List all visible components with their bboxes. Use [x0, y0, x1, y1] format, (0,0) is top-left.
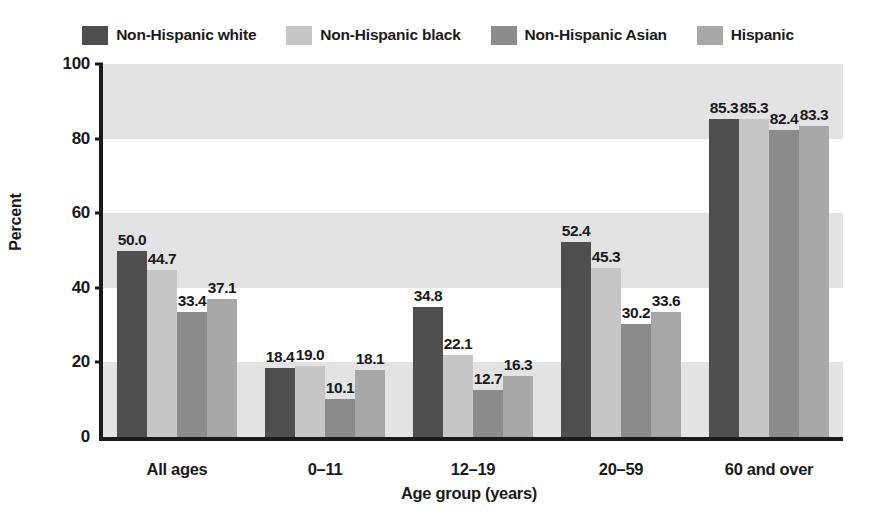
bar-value-label: 44.7 — [148, 250, 177, 268]
bar-slot: 10.1 — [325, 64, 355, 437]
bar-value-label: 85.3 — [710, 99, 739, 117]
legend-entry: Hispanic — [697, 26, 794, 45]
bar[interactable] — [591, 268, 621, 437]
bar-group: 52.445.330.233.620–59 — [547, 64, 695, 437]
bar-group: 18.419.010.118.10–11 — [251, 64, 399, 437]
bar[interactable] — [355, 370, 385, 438]
bar-value-label: 10.1 — [326, 379, 355, 397]
bar[interactable] — [709, 119, 739, 437]
y-axis-tick-mark — [95, 361, 103, 364]
bar-slot: 83.3 — [799, 64, 829, 437]
bar[interactable] — [117, 251, 147, 438]
bar-value-label: 33.6 — [652, 292, 681, 310]
bar-value-label: 52.4 — [562, 222, 591, 240]
x-axis-tick-label: 12–19 — [451, 460, 495, 479]
legend-label: Non-Hispanic black — [320, 26, 460, 44]
plot-area: 020406080100 50.044.733.437.1All ages18.… — [99, 64, 843, 441]
bar-value-label: 45.3 — [592, 248, 621, 266]
bar-value-label: 85.3 — [740, 99, 769, 117]
bar-group: 50.044.733.437.1All ages — [103, 64, 251, 437]
y-axis-tick-label: 40 — [26, 278, 90, 298]
y-axis-tick-label: 100 — [26, 54, 90, 74]
bar[interactable] — [413, 307, 443, 437]
bar-value-label: 50.0 — [118, 231, 147, 249]
legend-entry: Non-Hispanic white — [82, 26, 256, 45]
legend-swatch-icon — [286, 26, 312, 45]
y-axis-tick-mark — [95, 212, 103, 215]
bar-slot: 44.7 — [147, 64, 177, 437]
bar[interactable] — [295, 366, 325, 437]
bar[interactable] — [561, 242, 591, 437]
bar-groups: 50.044.733.437.1All ages18.419.010.118.1… — [103, 64, 843, 437]
bar[interactable] — [799, 126, 829, 437]
y-axis-tick-label: 80 — [26, 129, 90, 149]
bar-slot: 18.4 — [265, 64, 295, 437]
y-axis-tick-mark — [95, 63, 103, 66]
bar-slot: 18.1 — [355, 64, 385, 437]
legend-swatch-icon — [491, 26, 517, 45]
legend-entry: Non-Hispanic Asian — [491, 26, 667, 45]
bar-slot: 34.8 — [413, 64, 443, 437]
y-axis-tick-label: 0 — [26, 427, 90, 447]
bar-slot: 45.3 — [591, 64, 621, 437]
bar-value-label: 16.3 — [504, 356, 533, 374]
bar[interactable] — [443, 355, 473, 437]
bar-chart-figure: Non-Hispanic whiteNon-Hispanic blackNon-… — [0, 0, 876, 520]
bar-value-label: 37.1 — [208, 279, 237, 297]
bar-slot: 82.4 — [769, 64, 799, 437]
y-axis-title: Percent — [7, 162, 25, 282]
bar[interactable] — [769, 130, 799, 437]
bar[interactable] — [147, 270, 177, 437]
chart-legend: Non-Hispanic whiteNon-Hispanic blackNon-… — [0, 22, 876, 48]
bar-slot: 12.7 — [473, 64, 503, 437]
bar-group: 34.822.112.716.312–19 — [399, 64, 547, 437]
bar-value-label: 34.8 — [414, 287, 443, 305]
bar-value-label: 19.0 — [296, 346, 325, 364]
bar[interactable] — [473, 390, 503, 437]
bar-slot: 16.3 — [503, 64, 533, 437]
bar-slot: 33.4 — [177, 64, 207, 437]
x-axis-tick-label: 60 and over — [725, 460, 813, 479]
bar-slot: 85.3 — [709, 64, 739, 437]
bar-value-label: 30.2 — [622, 304, 651, 322]
bar[interactable] — [177, 312, 207, 437]
bar-value-label: 33.4 — [178, 292, 207, 310]
bar-value-label: 12.7 — [474, 370, 503, 388]
bar-value-label: 18.4 — [266, 348, 295, 366]
bar-value-label: 83.3 — [800, 106, 829, 124]
x-axis-tick-label: All ages — [147, 460, 208, 479]
bar[interactable] — [207, 299, 237, 437]
y-axis-tick-mark — [95, 137, 103, 140]
bar-slot: 33.6 — [651, 64, 681, 437]
x-axis-tick-label: 0–11 — [308, 460, 343, 479]
bar-slot: 19.0 — [295, 64, 325, 437]
bar-slot: 52.4 — [561, 64, 591, 437]
bar[interactable] — [265, 368, 295, 437]
bar-value-label: 82.4 — [770, 110, 799, 128]
bar-slot: 30.2 — [621, 64, 651, 437]
legend-label: Non-Hispanic white — [116, 26, 256, 44]
bar[interactable] — [739, 119, 769, 437]
y-axis-tick-label: 60 — [26, 203, 90, 223]
x-axis-tick-label: 20–59 — [599, 460, 643, 479]
bar[interactable] — [325, 399, 355, 437]
bar[interactable] — [621, 324, 651, 437]
legend-entry: Non-Hispanic black — [286, 26, 460, 45]
legend-swatch-icon — [697, 26, 723, 45]
legend-label: Hispanic — [731, 26, 794, 44]
legend-label: Non-Hispanic Asian — [525, 26, 667, 44]
bar-group: 85.385.382.483.360 and over — [695, 64, 843, 437]
bar-slot: 22.1 — [443, 64, 473, 437]
bar[interactable] — [503, 376, 533, 437]
bar-slot: 85.3 — [739, 64, 769, 437]
legend-swatch-icon — [82, 26, 108, 45]
y-axis-tick-mark — [95, 286, 103, 289]
bar-slot: 50.0 — [117, 64, 147, 437]
bar[interactable] — [651, 312, 681, 437]
bar-slot: 37.1 — [207, 64, 237, 437]
y-axis-tick-label: 20 — [26, 352, 90, 372]
x-axis-title: Age group (years) — [99, 484, 839, 503]
bar-value-label: 18.1 — [356, 350, 385, 368]
bar-value-label: 22.1 — [444, 335, 473, 353]
